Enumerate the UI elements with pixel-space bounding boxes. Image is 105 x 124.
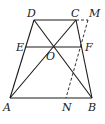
point-label-a: A — [2, 101, 11, 114]
point-label-m: M — [88, 7, 101, 20]
point-label-o: O — [46, 50, 55, 63]
segment-da — [10, 20, 34, 98]
trapezoid-diagram: ABCDEFOMN — [0, 0, 105, 124]
point-label-f: F — [84, 41, 93, 54]
segment-mn — [66, 20, 88, 98]
point-label-c: C — [71, 7, 80, 20]
segment-bc — [76, 20, 92, 98]
point-label-e: E — [15, 41, 24, 54]
point-label-d: D — [26, 7, 36, 20]
point-label-b: B — [87, 101, 96, 114]
point-label-n: N — [61, 101, 72, 114]
